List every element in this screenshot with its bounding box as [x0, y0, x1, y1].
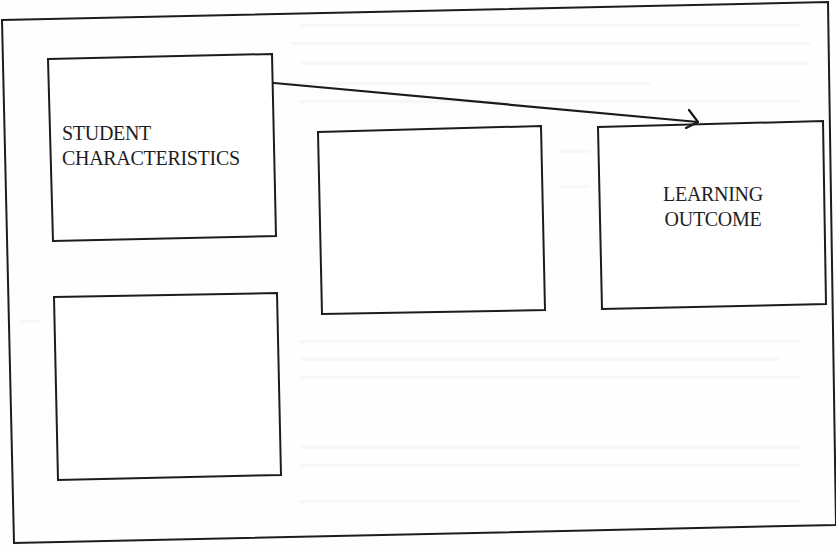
- conceptual-framework-diagram: [0, 0, 836, 546]
- label-line: LEARNING: [613, 182, 813, 207]
- edge-student-to-outcome: [274, 83, 698, 128]
- learning-outcome-label: LEARNING OUTCOME: [613, 182, 813, 232]
- node-middle-empty: [318, 126, 545, 314]
- label-line: STUDENT: [62, 121, 272, 146]
- label-line: CHARACTERISTICS: [62, 146, 272, 171]
- student-characteristics-label: STUDENT CHARACTERISTICS: [62, 121, 272, 171]
- label-line: OUTCOME: [613, 207, 813, 232]
- node-bottom-left-empty: [54, 293, 281, 480]
- scanned-page: STUDENT CHARACTERISTICS LEARNING OUTCOME: [0, 0, 836, 546]
